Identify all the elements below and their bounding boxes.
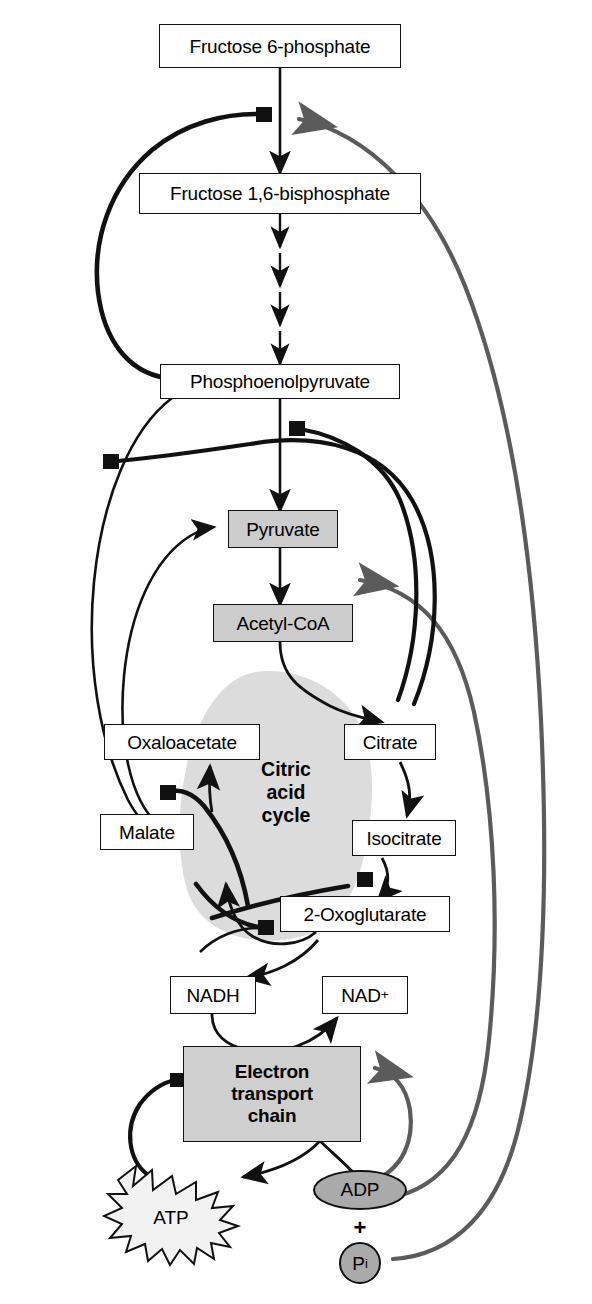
node-citrate[interactable]: Citrate	[344, 724, 436, 760]
node-isocitrate[interactable]: Isocitrate	[352, 820, 456, 856]
node-acetyl-coa[interactable]: Acetyl-CoA	[213, 604, 353, 642]
plus-text: +	[354, 1215, 367, 1241]
node-label: Citrate	[363, 733, 418, 752]
node-label: Malate	[119, 823, 175, 842]
node-malate[interactable]: Malate	[100, 814, 194, 850]
etc-line-2: transport	[231, 1083, 313, 1105]
adp-label[interactable]: ADP	[327, 1177, 393, 1203]
node-electron-transport-chain[interactable]: Electron transport chain	[183, 1046, 361, 1142]
atp-label[interactable]: ATP	[138, 1205, 204, 1231]
node-nadh[interactable]: NADH	[170, 976, 256, 1014]
pi-text: P	[352, 1253, 365, 1275]
node-nad-plus[interactable]: NAD+	[322, 976, 408, 1014]
node-label: 2-Oxoglutarate	[304, 905, 427, 924]
etc-line-3: chain	[248, 1105, 297, 1127]
node-label: Oxaloacetate	[127, 733, 237, 752]
node-pyruvate[interactable]: Pyruvate	[228, 510, 338, 548]
plus-sign-label: +	[344, 1215, 376, 1241]
node-phosphoenolpyruvate[interactable]: Phosphoenolpyruvate	[160, 364, 400, 399]
node-2-oxoglutarate[interactable]: 2-Oxoglutarate	[280, 896, 450, 932]
node-label: NADH	[186, 986, 239, 1005]
node-label: Phosphoenolpyruvate	[190, 372, 370, 391]
node-label: NAD	[341, 986, 381, 1005]
node-label: Fructose 6-phosphate	[190, 37, 371, 56]
node-fructose-6-phosphate[interactable]: Fructose 6-phosphate	[159, 24, 401, 68]
adp-text: ADP	[340, 1179, 379, 1201]
pi-label[interactable]: Pi	[336, 1251, 384, 1277]
node-label: Isocitrate	[366, 829, 441, 848]
node-label: Pyruvate	[246, 520, 319, 539]
etc-line-1: Electron	[235, 1061, 309, 1083]
atp-text: ATP	[153, 1207, 189, 1229]
node-fructose-1-6-bisphosphate[interactable]: Fructose 1,6-bisphosphate	[139, 173, 421, 214]
pathway-diagram: Fructose 6-phosphate Fructose 1,6-bispho…	[0, 0, 592, 1304]
node-label: Acetyl-CoA	[236, 614, 329, 633]
node-label: Fructose 1,6-bisphosphate	[170, 184, 390, 203]
node-oxaloacetate[interactable]: Oxaloacetate	[104, 724, 260, 760]
